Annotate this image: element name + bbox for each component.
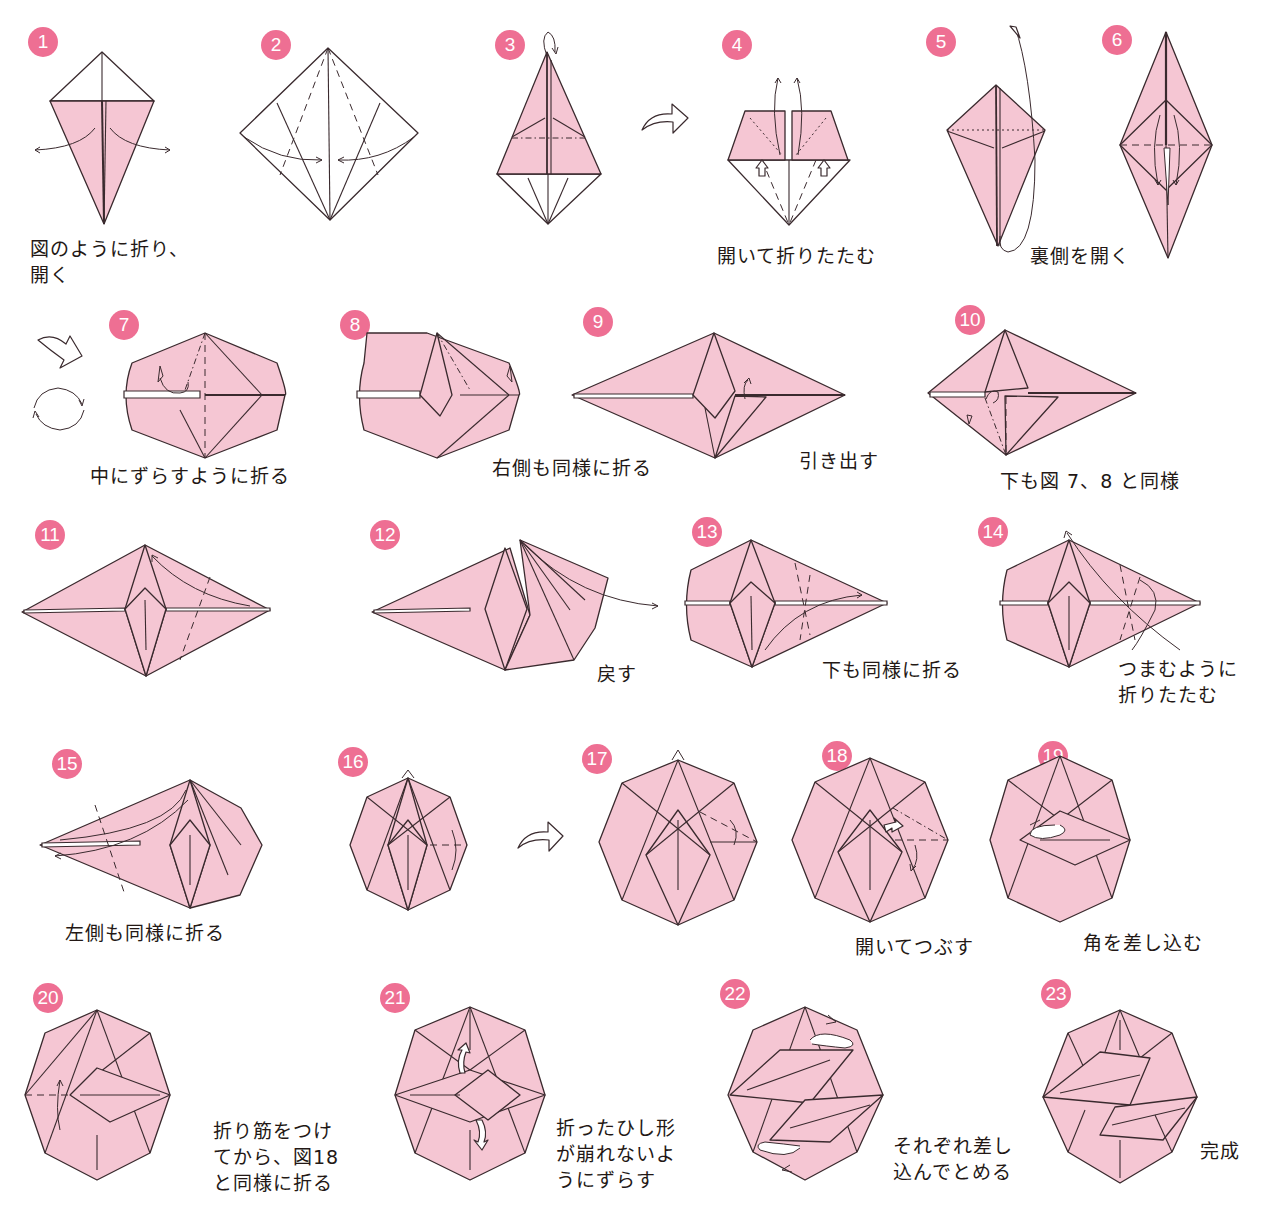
finished-model-diagram <box>0 0 1277 1215</box>
step-caption: 完成 <box>1200 1138 1240 1164</box>
